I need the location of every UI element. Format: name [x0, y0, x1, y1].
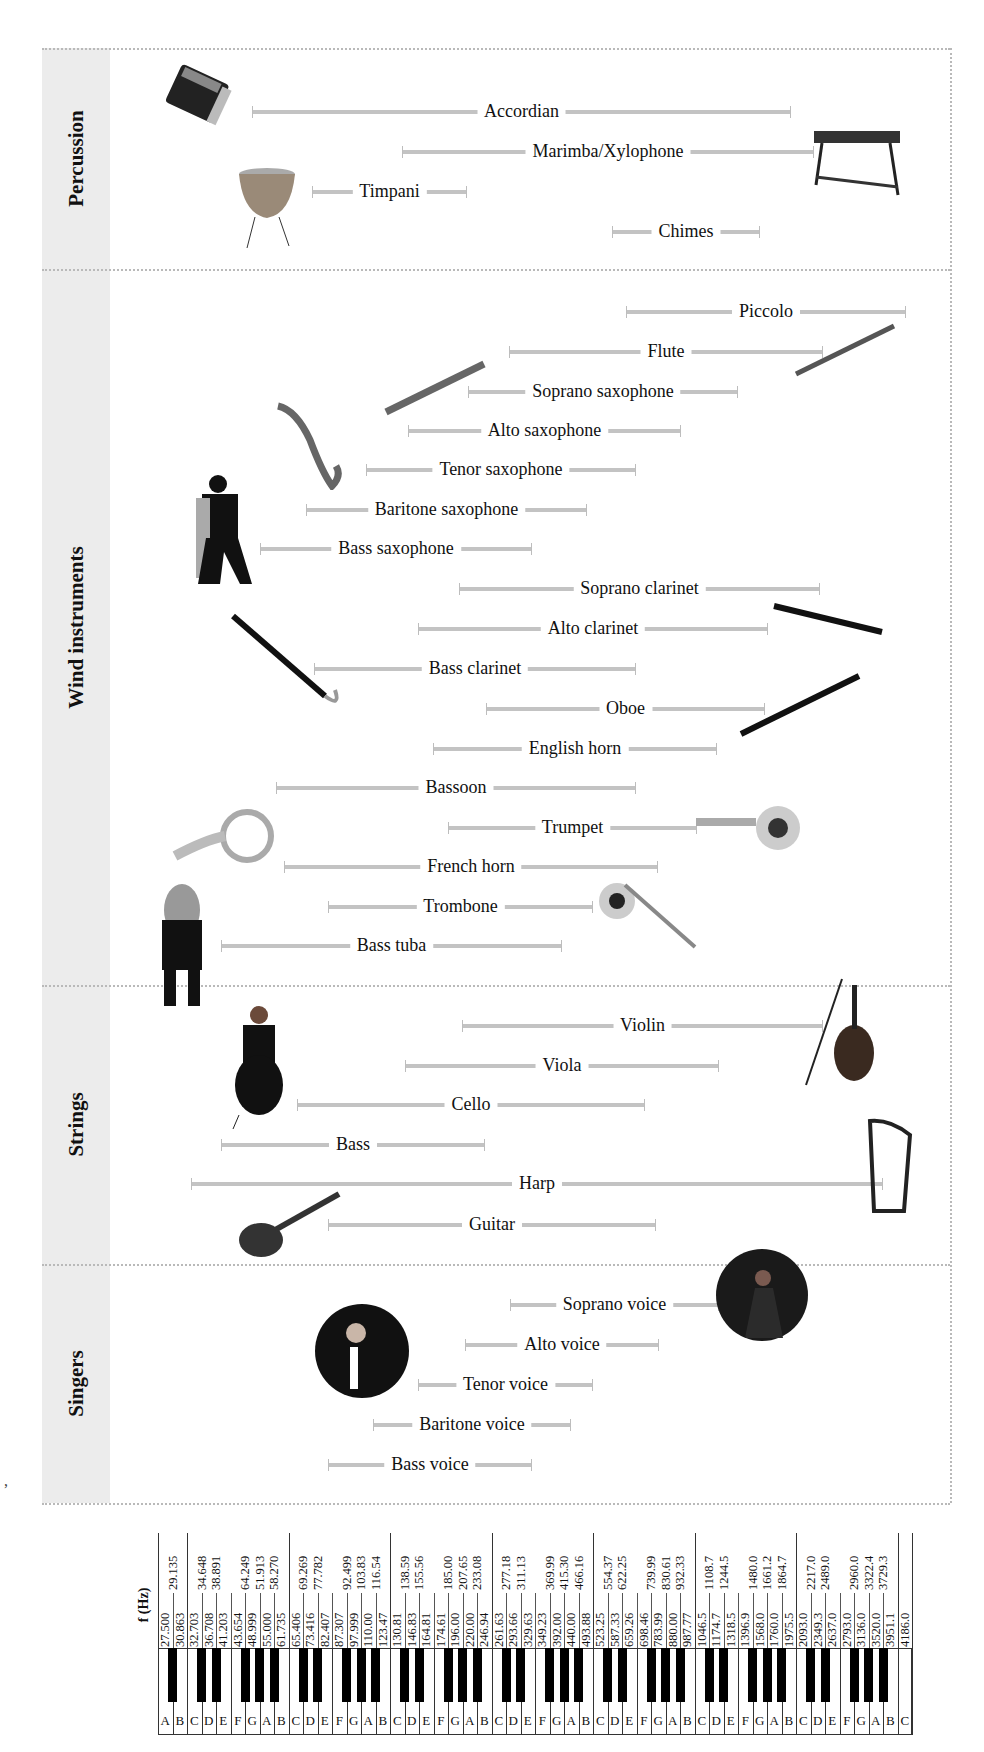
key-letter: D: [506, 1713, 521, 1729]
black-key: [864, 1648, 873, 1702]
key-letter: A: [361, 1713, 376, 1729]
black-key-frequency: 466.16: [573, 1547, 585, 1590]
range-start-tick: [408, 425, 409, 437]
bass-clarinet-icon: [225, 610, 345, 710]
key-letter: B: [173, 1713, 188, 1729]
white-key-frequency: 3520.0: [869, 1603, 884, 1647]
black-key-frequency: 185.00: [442, 1547, 454, 1590]
black-key-frequency: 1480.0: [747, 1547, 759, 1590]
frequency-value: 3729.3: [877, 1556, 890, 1590]
frequency-value: 220.00: [463, 1613, 476, 1647]
range-end-tick: [635, 782, 636, 794]
range-label: Baritone saxophone: [368, 498, 525, 520]
frequency-value: 415.30: [558, 1556, 571, 1590]
key-divider: [782, 1593, 783, 1648]
frequency-value: 4186.0: [898, 1613, 911, 1647]
range-start-tick: [252, 106, 253, 118]
black-key: [647, 1648, 656, 1702]
black-key-frequency: 1661.2: [761, 1547, 773, 1590]
black-key: [357, 1648, 366, 1702]
frequency-value: 622.25: [616, 1556, 629, 1590]
range-start-tick: [433, 743, 434, 755]
range-end-tick: [718, 1060, 719, 1072]
key-divider: [245, 1593, 246, 1648]
frequency-value: 103.83: [355, 1556, 368, 1590]
piano-keyboard: A27.500B30.863C32.703D36.708E41.203F43.6…: [158, 1533, 912, 1735]
range-end-tick: [716, 743, 717, 755]
timpani-icon: [235, 162, 305, 252]
range-start-tick: [405, 1060, 406, 1072]
white-key-frequency: 61.735: [274, 1603, 289, 1647]
black-key-frequency: 369.99: [544, 1547, 556, 1590]
key-divider: [332, 1593, 333, 1648]
key-letter: C: [390, 1713, 405, 1729]
black-key: [806, 1648, 815, 1702]
key-divider: [666, 1593, 667, 1648]
white-key-frequency: 43.654: [231, 1603, 246, 1647]
frequency-value: 207.65: [456, 1556, 469, 1590]
key-divider: [434, 1593, 435, 1648]
black-key-frequency: 207.65: [457, 1547, 469, 1590]
category-label-text: Singers: [63, 1350, 88, 1417]
octave-divider: [289, 1533, 290, 1648]
white-key-frequency: 130.81: [390, 1603, 405, 1647]
black-key-frequency: 92.499: [341, 1547, 353, 1590]
frequency-value: 3520.0: [869, 1613, 882, 1647]
key-letter: C: [593, 1713, 608, 1729]
frequency-value: 1108.7: [703, 1556, 716, 1590]
range-start-tick: [448, 822, 449, 834]
key-letter: G: [550, 1713, 565, 1729]
frequency-value: 55.000: [260, 1613, 273, 1647]
frequency-value: 1975.5: [782, 1613, 795, 1647]
frequency-value: 146.83: [405, 1613, 418, 1647]
black-key-frequency: 1244.5: [718, 1547, 730, 1590]
key-letter: G: [448, 1713, 463, 1729]
black-key: [777, 1648, 786, 1702]
frequency-value: 110.00: [362, 1613, 375, 1647]
stray-comma: ,: [4, 1472, 8, 1490]
soprano-singer-photo: [715, 1248, 810, 1343]
range-label: Bass saxophone: [331, 537, 461, 559]
black-key: [618, 1648, 627, 1702]
frequency-value: 3951.1: [884, 1613, 897, 1647]
flute-icon: [790, 320, 900, 380]
key-divider: [854, 1593, 855, 1648]
white-key-frequency: 55.000: [260, 1603, 275, 1647]
white-key-frequency: 41.203: [216, 1603, 231, 1647]
white-key-frequency: 82.407: [318, 1603, 333, 1647]
key-letter: E: [521, 1713, 536, 1729]
range-start-tick: [328, 1459, 329, 1471]
frequency-value: 64.249: [239, 1556, 252, 1590]
range-start-tick: [486, 703, 487, 715]
range-label: Trumpet: [535, 816, 610, 838]
black-key: [313, 1648, 322, 1702]
frequency-value: 311.13: [514, 1556, 527, 1590]
black-key: [748, 1648, 757, 1702]
frequency-value: 36.708: [202, 1613, 215, 1647]
range-label: Soprano clarinet: [573, 577, 705, 599]
white-key-frequency: 146.83: [405, 1603, 420, 1647]
guitar-icon: [235, 1188, 345, 1263]
black-key: [502, 1648, 511, 1702]
black-key-frequency: 554.37: [602, 1547, 614, 1590]
key-divider: [724, 1593, 725, 1648]
white-key-frequency: 392.00: [550, 1603, 565, 1647]
black-key-frequency: 116.54: [370, 1547, 382, 1590]
key-divider: [869, 1593, 870, 1648]
key-letter: D: [811, 1713, 826, 1729]
range-end-tick: [655, 1219, 656, 1231]
trumpet-icon: [690, 800, 800, 855]
key-divider: [840, 1593, 841, 1648]
black-key: [661, 1648, 670, 1702]
frequency-value: 51.913: [253, 1556, 266, 1590]
range-start-tick: [462, 1020, 463, 1032]
range-end-tick: [592, 1379, 593, 1391]
frequency-value: 61.735: [275, 1613, 288, 1647]
black-key: [212, 1648, 221, 1702]
white-key-frequency: 73.416: [303, 1603, 318, 1647]
black-key: [400, 1648, 409, 1702]
tenor-saxophone-icon: [270, 400, 360, 490]
white-key-frequency: 87.307: [332, 1603, 347, 1647]
frequency-value: 1244.5: [717, 1556, 730, 1590]
black-key-frequency: 155.56: [413, 1547, 425, 1590]
